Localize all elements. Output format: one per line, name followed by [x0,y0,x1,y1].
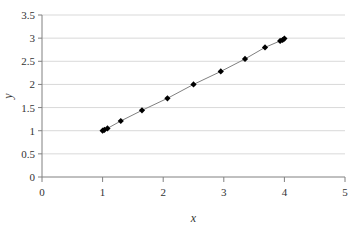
x-axis-title: x [190,211,197,225]
y-tick-label: 2.5 [21,55,35,67]
data-point-marker [218,68,224,74]
x-axis-ticks: 012345 [39,177,348,198]
data-point-marker [164,95,170,101]
chart-container: 00.511.522.533.5012345xy [0,0,357,234]
y-tick-label: 3 [30,32,36,44]
data-point-marker [190,81,196,87]
x-tick-label: 3 [221,186,227,198]
x-tick-label: 2 [160,186,166,198]
y-axis-title: y [1,93,15,100]
data-point-marker [262,44,268,50]
y-tick-label: 1 [30,125,36,137]
y-axis-ticks: 00.511.522.533.5 [21,9,42,183]
y-tick-label: 2 [30,78,36,90]
x-tick-label: 0 [39,186,45,198]
scatter-plot: 00.511.522.533.5012345xy [0,0,357,234]
x-tick-label: 4 [282,186,288,198]
y-tick-label: 1.5 [21,102,35,114]
axes [42,15,345,177]
x-tick-label: 1 [100,186,106,198]
y-tick-label: 0.5 [21,148,35,160]
y-tick-label: 3.5 [21,9,35,21]
data-point-marker [139,107,145,113]
data-point-marker [118,118,124,124]
y-tick-label: 0 [30,171,36,183]
x-tick-label: 5 [342,186,348,198]
